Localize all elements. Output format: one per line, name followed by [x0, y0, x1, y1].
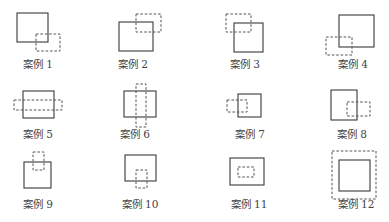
case-1-label: 案例 1	[23, 56, 53, 71]
dashed-rectangle	[136, 84, 146, 127]
case-2-label: 案例 2	[118, 56, 148, 71]
case-11-figure	[230, 158, 264, 185]
case-5-figure	[14, 91, 62, 118]
case-12-label: 案例 12	[338, 196, 375, 211]
case-8-label: 案例 8	[337, 126, 367, 141]
case-7-figure	[227, 94, 261, 117]
solid-rectangle	[17, 13, 48, 42]
case-11-label: 案例 11	[231, 196, 268, 211]
cases-diagram	[0, 0, 389, 222]
dashed-rectangle	[227, 100, 247, 112]
solid-rectangle	[339, 160, 370, 191]
solid-rectangle	[339, 15, 374, 47]
solid-rectangle	[238, 94, 261, 117]
case-9-label: 案例 9	[23, 196, 53, 211]
solid-rectangle	[230, 158, 264, 185]
case-3-label: 案例 3	[230, 56, 260, 71]
dashed-rectangle	[238, 167, 254, 177]
case-9-figure	[24, 152, 51, 188]
case-12-figure	[332, 151, 376, 199]
case-5-label: 案例 5	[23, 126, 53, 141]
solid-rectangle	[124, 91, 156, 117]
dashed-rectangle	[347, 102, 370, 116]
dashed-rectangle	[136, 14, 161, 32]
case-10-label: 案例 10	[122, 196, 159, 211]
case-4-figure	[326, 15, 374, 55]
case-3-figure	[226, 14, 263, 52]
dashed-rectangle	[136, 170, 147, 188]
case-6-figure	[124, 84, 156, 127]
solid-rectangle	[119, 22, 153, 51]
solid-rectangle	[234, 23, 263, 52]
dashed-rectangle	[33, 152, 44, 170]
case-8-figure	[331, 90, 370, 120]
case-1-figure	[17, 13, 60, 51]
solid-rectangle	[24, 162, 51, 188]
case-6-label: 案例 6	[120, 126, 150, 141]
case-4-label: 案例 4	[338, 56, 368, 71]
solid-rectangle	[23, 91, 54, 118]
solid-rectangle	[125, 155, 156, 181]
case-10-figure	[125, 155, 156, 188]
dashed-rectangle	[14, 100, 62, 110]
case-2-figure	[119, 14, 161, 51]
case-7-label: 案例 7	[235, 126, 265, 141]
